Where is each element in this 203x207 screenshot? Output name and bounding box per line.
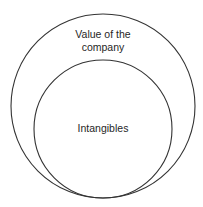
outer-label-line2: company xyxy=(53,41,153,54)
inner-circle-label: Intangibles xyxy=(53,122,153,135)
outer-label-line1: Value of the xyxy=(53,28,153,41)
diagram-canvas: Value of the company Intangibles xyxy=(0,0,203,207)
outer-circle-label: Value of the company xyxy=(53,28,153,54)
inner-label-text: Intangibles xyxy=(53,122,153,135)
